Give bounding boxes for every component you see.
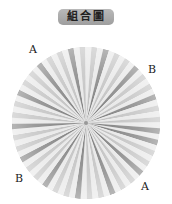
rosette-center	[84, 121, 88, 125]
label-b-top-right: B	[148, 64, 156, 75]
label-a-bottom-right: A	[141, 181, 149, 192]
label-b-bottom-left: B	[15, 173, 23, 184]
label-a-top-left: A	[29, 44, 37, 55]
pleated-rosette-illustration	[0, 0, 172, 204]
pleats	[0, 33, 172, 204]
